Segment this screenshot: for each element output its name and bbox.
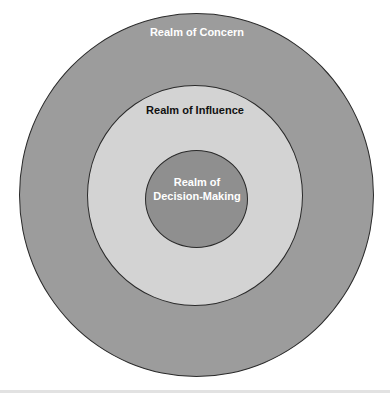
decision-label-line1: Realm of xyxy=(2,175,390,189)
decision-label-line2: Decision-Making xyxy=(2,189,390,203)
realm-of-concern-label: Realm of Concern xyxy=(2,26,390,38)
realm-of-influence-label: Realm of Influence xyxy=(0,104,390,116)
realm-of-decision-making-label: Realm of Decision-Making xyxy=(2,175,390,203)
